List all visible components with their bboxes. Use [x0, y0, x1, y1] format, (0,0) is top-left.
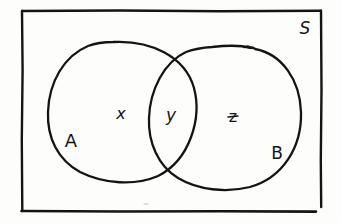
z-crossbar-mark — [228, 116, 238, 117]
region-only-a-label: x — [115, 104, 126, 123]
universe-label: S — [300, 18, 311, 38]
venn-diagram-canvas: S A B x y z — [0, 0, 341, 223]
set-b-label: B — [271, 143, 283, 163]
universe-bottom-edge — [22, 211, 317, 212]
universe-right-edge — [321, 11, 322, 207]
venn-diagram: S A B x y z — [0, 0, 341, 223]
universe-left-edge — [22, 11, 23, 211]
set-a-label: A — [65, 130, 78, 151]
region-intersection-label: y — [165, 105, 177, 125]
universe-top-edge — [22, 11, 321, 12]
